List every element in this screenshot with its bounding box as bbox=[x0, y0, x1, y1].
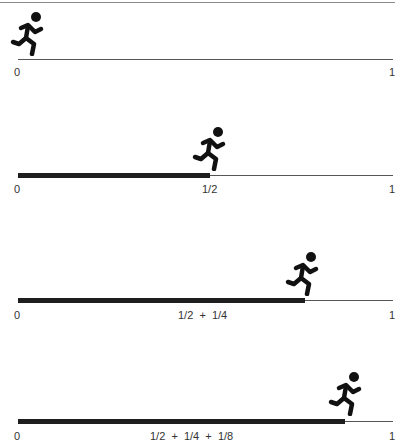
top-rule bbox=[0, 2, 395, 3]
label-zero: 0 bbox=[14, 183, 20, 195]
label-zero: 0 bbox=[14, 309, 20, 321]
progress-bar-seven-eighths bbox=[18, 419, 345, 424]
label-sum: 1/2 + 1/4 + 1/8 bbox=[150, 430, 233, 442]
runner-icon bbox=[285, 250, 325, 296]
runner-icon bbox=[10, 10, 50, 56]
number-line bbox=[18, 59, 393, 60]
label-one: 1 bbox=[389, 183, 395, 195]
runner-icon bbox=[192, 125, 232, 171]
label-one: 1 bbox=[389, 66, 395, 78]
label-zero: 0 bbox=[14, 430, 20, 442]
runner-icon bbox=[328, 370, 368, 416]
progress-bar-three-quarters bbox=[18, 298, 305, 303]
label-sum: 1/2 bbox=[202, 183, 217, 195]
label-zero: 0 bbox=[14, 66, 20, 78]
label-sum: 1/2 + 1/4 bbox=[178, 309, 227, 321]
progress-bar-half bbox=[18, 173, 210, 178]
label-one: 1 bbox=[389, 430, 395, 442]
label-one: 1 bbox=[389, 309, 395, 321]
